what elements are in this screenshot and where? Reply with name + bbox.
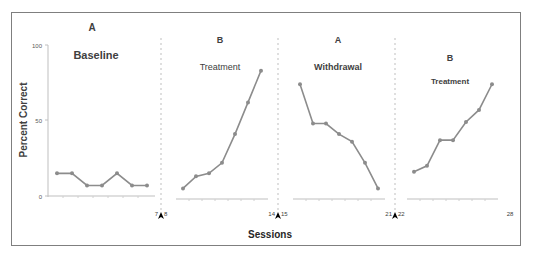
data-point bbox=[259, 69, 263, 73]
data-point bbox=[298, 82, 302, 86]
session-label-28: 28 bbox=[507, 211, 514, 217]
data-point bbox=[337, 132, 341, 136]
data-point bbox=[207, 171, 211, 175]
data-point bbox=[100, 183, 104, 187]
data-point bbox=[194, 174, 198, 178]
phase-2-name: Treatment bbox=[200, 62, 241, 72]
series-line-phase-3 bbox=[300, 84, 378, 188]
data-point bbox=[363, 161, 367, 165]
data-point bbox=[324, 122, 328, 126]
single-subject-chart: 100 50 0 Percent Correct A Baseline B Tr… bbox=[0, 0, 534, 259]
data-point bbox=[425, 164, 429, 168]
session-label-21: 21 bbox=[385, 211, 392, 217]
data-point bbox=[130, 183, 134, 187]
data-point bbox=[220, 161, 224, 165]
series-line-phase-2 bbox=[183, 71, 261, 189]
phase-change-markers bbox=[158, 212, 398, 219]
data-point bbox=[412, 170, 416, 174]
data-point bbox=[311, 122, 315, 126]
data-point bbox=[451, 138, 455, 142]
y-tick-100: 100 bbox=[32, 43, 43, 49]
session-labels: 7 8 14 15 21 22 28 bbox=[155, 211, 514, 217]
y-axis-label: Percent Correct bbox=[18, 82, 29, 158]
session-label-7: 7 bbox=[155, 211, 159, 217]
data-series bbox=[55, 69, 494, 191]
data-point bbox=[477, 108, 481, 112]
x-axis-segments bbox=[48, 196, 498, 199]
data-point bbox=[438, 138, 442, 142]
session-label-8: 8 bbox=[164, 211, 168, 217]
data-point bbox=[115, 171, 119, 175]
session-label-14: 14 bbox=[268, 211, 275, 217]
phase-4-name: Treatment bbox=[431, 77, 470, 86]
data-point bbox=[376, 186, 380, 190]
data-point bbox=[490, 82, 494, 86]
phase-1-name: Baseline bbox=[73, 49, 118, 61]
x-axis-label: Sessions bbox=[248, 229, 292, 240]
data-point bbox=[246, 100, 250, 104]
data-point bbox=[181, 186, 185, 190]
data-point bbox=[55, 171, 59, 175]
phase-4-letter: B bbox=[447, 53, 454, 63]
data-point bbox=[350, 140, 354, 144]
phase-2-letter: B bbox=[217, 35, 224, 45]
series-line-phase-4 bbox=[414, 84, 492, 172]
data-point bbox=[233, 132, 237, 136]
phase-3-name: Withdrawal bbox=[314, 62, 362, 72]
y-axis: 100 50 0 Percent Correct bbox=[18, 43, 48, 200]
phase-1-letter: A bbox=[88, 22, 95, 33]
phase-3-letter: A bbox=[335, 35, 342, 45]
data-point bbox=[464, 120, 468, 124]
data-point bbox=[70, 171, 74, 175]
y-tick-0: 0 bbox=[39, 194, 43, 200]
data-point bbox=[145, 183, 149, 187]
session-label-22: 22 bbox=[398, 211, 405, 217]
y-tick-50: 50 bbox=[35, 118, 42, 124]
data-point bbox=[85, 183, 89, 187]
session-label-15: 15 bbox=[281, 211, 288, 217]
phase-headings: A Baseline B Treatment A Withdrawal B Tr… bbox=[73, 22, 469, 86]
